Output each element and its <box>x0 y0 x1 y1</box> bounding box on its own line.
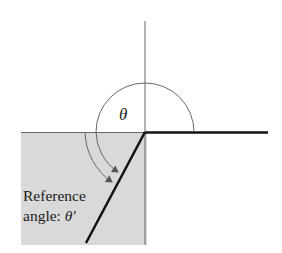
theta-label: θ <box>119 105 127 124</box>
reference-label-prefix: angle: <box>23 207 65 224</box>
reference-label-line1: Reference <box>23 187 86 204</box>
reference-angle-symbol: θ′ <box>65 207 77 224</box>
reference-angle-diagram: θ Reference angle: θ′ <box>0 0 282 253</box>
reference-label-line2: angle: θ′ <box>23 207 76 224</box>
